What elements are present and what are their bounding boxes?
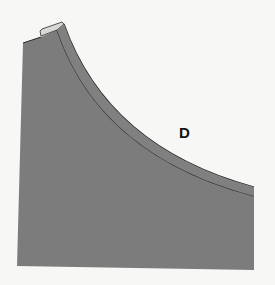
diagram-label: D: [179, 124, 190, 141]
ramp-body: [17, 30, 254, 270]
ramp-diagram: [0, 0, 275, 285]
